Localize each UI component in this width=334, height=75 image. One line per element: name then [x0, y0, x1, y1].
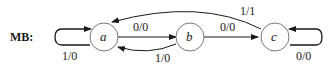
transition-a-b: 0/0 — [118, 20, 176, 37]
transition-label: 0/0 — [133, 20, 148, 34]
transition-label: 1/0 — [155, 51, 170, 65]
state-label: c — [271, 29, 277, 44]
transition-a-a: 1/0 — [55, 29, 91, 63]
transition-label: 1/0 — [62, 49, 77, 63]
transition-b-a: 1/0 — [118, 44, 176, 65]
state-a: a — [90, 23, 118, 51]
state-diagram: MB: 1/0 0/0 1/0 0/0 1/1 0/0 a b — [0, 0, 334, 75]
transition-label: 0/0 — [296, 49, 311, 63]
state-label: a — [100, 29, 107, 44]
state-c: c — [261, 23, 289, 51]
state-label: b — [186, 29, 193, 44]
diagram-title: MB: — [10, 30, 33, 44]
transition-label: 1/1 — [240, 4, 255, 18]
transition-c-c: 0/0 — [289, 29, 322, 63]
transition-b-c: 0/0 — [204, 20, 258, 37]
transition-label: 0/0 — [220, 20, 235, 34]
state-b: b — [176, 23, 204, 51]
